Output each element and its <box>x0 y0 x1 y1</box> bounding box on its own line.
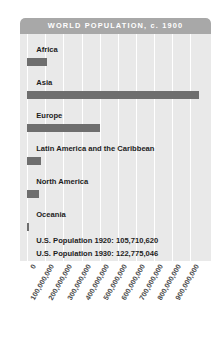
chart-header: WORLD POPULATION, c. 1900 <box>20 18 211 34</box>
series-bar <box>27 58 47 66</box>
x-axis-tick-labels: 0100,000,000200,000,000300,000,000400,00… <box>20 263 220 347</box>
note-line: U.S. Population 1930: 122,775,046 <box>36 250 158 258</box>
series-row: Europe <box>20 112 211 140</box>
series-row: Asia <box>20 79 211 107</box>
series-bar <box>27 157 41 165</box>
note-line: U.S. Population 1920: 105,710,620 <box>36 237 158 245</box>
series-row: Oceania <box>20 211 211 239</box>
series-label: North America <box>36 178 88 186</box>
tick-label: 0 <box>29 263 37 270</box>
series-bar <box>27 124 99 132</box>
series-bar <box>27 223 29 231</box>
series-bar <box>27 91 199 99</box>
series-row: North America <box>20 178 211 206</box>
series-label: Europe <box>36 112 62 120</box>
series-label: Latin America and the Caribbean <box>36 145 154 153</box>
chart-title: WORLD POPULATION, c. 1900 <box>48 22 183 29</box>
chart-panel: WORLD POPULATION, c. 1900 AfricaAsiaEuro… <box>20 18 211 261</box>
series-row: Africa <box>20 46 211 74</box>
series-label: Asia <box>36 79 52 87</box>
series-label: Oceania <box>36 211 66 219</box>
world-population-chart: WORLD POPULATION, c. 1900 AfricaAsiaEuro… <box>0 0 220 347</box>
series-row: Latin America and the Caribbean <box>20 145 211 173</box>
series-label: Africa <box>36 46 58 54</box>
series-bar <box>27 190 39 198</box>
plot-area: AfricaAsiaEuropeLatin America and the Ca… <box>20 34 211 261</box>
